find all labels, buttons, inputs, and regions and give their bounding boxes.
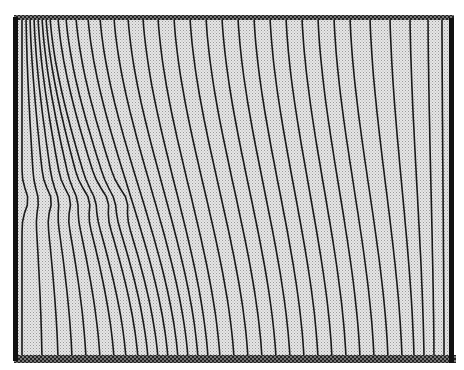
bottom-boundary (14, 355, 456, 363)
curvilinear-grid-figure (0, 0, 464, 370)
top-boundary (14, 15, 454, 20)
left-boundary (13, 17, 18, 361)
right-boundary (449, 18, 454, 363)
